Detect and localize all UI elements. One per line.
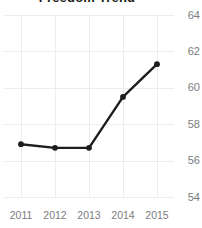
line-chart: Freedom Trend 646260585654 2011201220132… [0, 0, 202, 228]
series-markers [18, 61, 160, 151]
series-layer [0, 0, 202, 228]
data-point [86, 145, 92, 151]
data-point [52, 145, 58, 151]
data-point [18, 141, 24, 147]
series-line-freedom-trend [21, 64, 157, 148]
data-point [154, 61, 160, 67]
data-point [120, 94, 126, 100]
